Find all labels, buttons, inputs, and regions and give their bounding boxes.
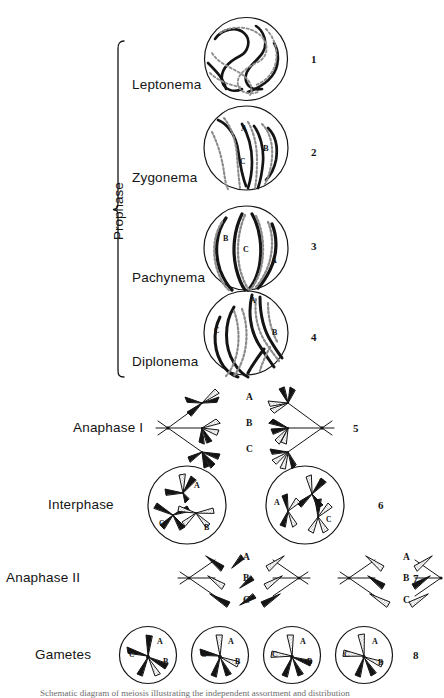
svg-text:B: B	[263, 143, 269, 153]
cell-zygonema: A B C	[204, 106, 288, 190]
interphase-cell-right: B A C	[266, 466, 344, 544]
gamete-cell-3: A B C	[264, 627, 321, 684]
anaphase-ii-left-label-c: C	[243, 596, 250, 606]
cell-pachynema: B C A	[204, 206, 288, 290]
stage-label-zygonema: Zygonema	[132, 171, 197, 185]
stage-label-diplonema: Diplonema	[132, 355, 198, 369]
anaphase-ii-right-chromatids	[366, 556, 432, 607]
svg-text:A: A	[372, 637, 378, 646]
svg-text:B: B	[307, 657, 313, 666]
svg-text:A: A	[228, 637, 234, 646]
svg-text:C: C	[240, 157, 245, 166]
gamete-cell-4: A B C	[336, 627, 393, 684]
anaphase-ii-left-label-b: B	[243, 574, 249, 584]
svg-text:C: C	[272, 650, 277, 659]
svg-text:B: B	[235, 657, 241, 666]
figure-caption: Schematic diagram of meiosis illustratin…	[40, 688, 350, 698]
svg-text:B: B	[163, 657, 169, 666]
svg-text:C: C	[243, 245, 249, 254]
anaphase-ii-right-label-c: C	[403, 596, 410, 606]
svg-text:A: A	[271, 256, 277, 265]
stage-label-gametes: Gametes	[35, 648, 91, 662]
svg-text:A: A	[241, 123, 248, 133]
svg-text:B: B	[204, 523, 210, 532]
cell-diplonema: A C B	[204, 291, 288, 377]
svg-text:C: C	[344, 650, 349, 659]
stage-number-8: 8	[413, 650, 419, 661]
svg-text:C: C	[214, 326, 219, 335]
svg-text:A: A	[274, 498, 280, 507]
stage-number-2: 2	[311, 147, 317, 158]
svg-text:C: C	[159, 519, 164, 528]
anaphase-i-label-b: B	[246, 419, 252, 429]
stage-label-anaphase-i: Anaphase I	[73, 421, 143, 435]
svg-text:C: C	[201, 650, 206, 659]
anaphase-i-spindle	[156, 387, 334, 469]
svg-text:C: C	[129, 650, 134, 659]
svg-text:C: C	[326, 515, 331, 524]
stage-number-7: 7	[413, 573, 419, 584]
stage-label-anaphase-ii: Anaphase II	[6, 571, 80, 585]
interphase-cell-left: A B C	[148, 466, 226, 544]
svg-text:B: B	[378, 658, 384, 667]
svg-text:A: A	[300, 637, 306, 646]
anaphase-ii-right-label-b: B	[403, 574, 409, 584]
anaphase-i-label-c: C	[246, 445, 253, 455]
stage-label-leptonema: Leptonema	[132, 78, 201, 92]
gamete-cell-2: A B C	[192, 627, 249, 684]
cell-leptonema	[205, 18, 288, 101]
anaphase-ii-right-label-a: A	[403, 553, 410, 563]
prophase-bracket-label: Prophase	[112, 182, 126, 240]
svg-text:B: B	[223, 234, 229, 243]
svg-text:B: B	[272, 328, 278, 337]
svg-text:A: A	[194, 481, 200, 490]
svg-text:B: B	[319, 478, 325, 487]
gamete-cell-1: A B C	[120, 627, 177, 684]
svg-text:A: A	[250, 296, 256, 305]
stage-number-1: 1	[311, 54, 317, 65]
stage-label-interphase: Interphase	[48, 498, 114, 512]
svg-text:A: A	[157, 637, 163, 646]
stage-number-6: 6	[378, 500, 384, 511]
anaphase-ii-left-label-a: A	[243, 553, 250, 563]
stage-number-4: 4	[311, 332, 317, 343]
stage-label-pachynema: Pachynema	[132, 271, 205, 285]
stage-number-3: 3	[311, 241, 317, 252]
anaphase-i-label-a: A	[246, 393, 253, 403]
stage-number-5: 5	[353, 423, 359, 434]
